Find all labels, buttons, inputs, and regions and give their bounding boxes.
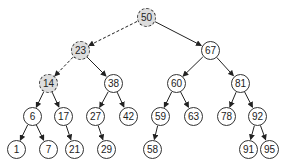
tree-node-50: 50 bbox=[137, 8, 156, 27]
edge-14-17 bbox=[52, 92, 59, 107]
tree-node-67: 67 bbox=[201, 41, 220, 60]
tree-node-58: 58 bbox=[143, 140, 162, 159]
tree-node-59: 59 bbox=[151, 107, 170, 126]
tree-node-91: 91 bbox=[239, 140, 258, 159]
tree-node-1: 1 bbox=[7, 140, 26, 159]
tree-node-27: 27 bbox=[86, 107, 105, 126]
tree-node-29: 29 bbox=[97, 140, 116, 159]
edge-67-81 bbox=[217, 57, 234, 75]
tree-node-42: 42 bbox=[119, 107, 138, 126]
edge-50-67 bbox=[155, 22, 201, 46]
tree-node-38: 38 bbox=[104, 74, 123, 93]
tree-node-92: 92 bbox=[248, 107, 267, 126]
tree-node-60: 60 bbox=[167, 74, 186, 93]
tree-node-7: 7 bbox=[39, 140, 58, 159]
edge-14-6 bbox=[36, 92, 43, 107]
tree-node-23: 23 bbox=[71, 41, 90, 60]
edge-92-91 bbox=[251, 126, 255, 140]
tree-node-14: 14 bbox=[39, 74, 58, 93]
tree-node-6: 6 bbox=[23, 107, 42, 126]
edge-38-42 bbox=[117, 92, 124, 107]
edge-60-59 bbox=[164, 92, 171, 107]
edge-67-60 bbox=[183, 57, 203, 76]
edge-60-63 bbox=[181, 92, 189, 107]
edge-6-1 bbox=[20, 125, 27, 140]
tree-node-63: 63 bbox=[184, 107, 203, 126]
edge-17-21 bbox=[66, 125, 71, 139]
tree-node-81: 81 bbox=[231, 74, 250, 93]
edge-59-58 bbox=[154, 126, 157, 140]
edge-92-95 bbox=[260, 125, 265, 139]
edge-23-14 bbox=[55, 57, 73, 76]
edge-81-78 bbox=[230, 92, 236, 107]
tree-node-17: 17 bbox=[54, 107, 73, 126]
tree-diagram: 5023671438608161727425963789217212958919… bbox=[0, 0, 285, 166]
tree-node-95: 95 bbox=[260, 140, 279, 159]
edge-81-92 bbox=[245, 92, 253, 107]
edge-27-29 bbox=[98, 125, 103, 139]
edge-50-23 bbox=[89, 21, 137, 45]
tree-node-21: 21 bbox=[65, 140, 84, 159]
edge-38-27 bbox=[100, 92, 108, 107]
tree-node-78: 78 bbox=[217, 107, 236, 126]
edge-23-38 bbox=[87, 57, 106, 76]
edge-6-7 bbox=[36, 125, 43, 140]
